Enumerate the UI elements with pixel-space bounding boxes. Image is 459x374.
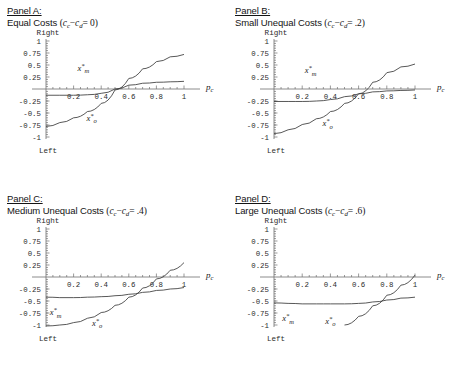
x-tick-label: 0.2 <box>67 93 80 101</box>
panel-b-condition: Small Unequal Costs <box>235 17 322 28</box>
y-tick-label: 0.5 <box>256 62 269 70</box>
y-tick-label: 1 <box>265 38 270 46</box>
x-axis-variable-label: pc <box>205 270 214 281</box>
x-tick-label: 0.2 <box>67 281 80 289</box>
panel-c-condition: Medium Unequal Costs <box>7 205 104 216</box>
curve-label-xm: x*m <box>76 62 89 74</box>
x-tick-label: 0.6 <box>122 93 135 101</box>
param-equals-value: = .6 <box>348 206 362 216</box>
y-tick-label: -1 <box>260 322 269 330</box>
param-equals-value: = 0 <box>83 18 95 28</box>
y-tick-label: 0.25 <box>23 262 41 270</box>
y-tick-label: 0.25 <box>23 74 41 82</box>
y-axis-bottom-label: Left <box>267 147 285 155</box>
curve-label-xm: x*m <box>281 312 294 324</box>
panel-c: Panel C: Medium Unequal Costs (cc−cd= .4… <box>0 188 228 374</box>
panel-d: Panel D: Large Unequal Costs (cc−cd= .6)… <box>228 188 459 374</box>
param-equals-value: = .4 <box>129 206 143 216</box>
y-tick-label: 0.25 <box>251 262 269 270</box>
x-tick-label: 0.6 <box>122 281 135 289</box>
y-axis-top-label: Right <box>37 217 60 225</box>
y-axis-bottom-label: Left <box>267 335 285 343</box>
panel-c-plot: 10.750.50.25-0.25-0.5-0.75-10.20.40.60.8… <box>0 215 228 373</box>
x-tick-label: 0.8 <box>150 281 163 289</box>
paren-close: ) <box>362 18 365 28</box>
panel-a-plot: 10.750.50.25-0.25-0.5-0.75-10.20.40.60.8… <box>0 27 228 185</box>
curve-label-xm: x*m <box>304 64 317 76</box>
y-tick-label: 0.75 <box>23 50 41 58</box>
y-tick-label: 0.5 <box>28 62 41 70</box>
panel-d-condition: Large Unequal Costs <box>235 205 322 216</box>
panel-b-svg: 10.750.50.25-0.25-0.5-0.75-10.20.40.60.8… <box>228 27 459 185</box>
curve-label-xo: x*o <box>324 315 336 327</box>
x-tick-label: 0.8 <box>380 93 393 101</box>
y-axis-bottom-label: Left <box>39 147 57 155</box>
panel-a-condition: Equal Costs <box>7 17 57 28</box>
y-tick-label: -0.25 <box>19 98 41 106</box>
y-tick-label: 0.25 <box>251 74 269 82</box>
x-tick-label: 1 <box>413 281 418 289</box>
panel-c-svg: 10.750.50.25-0.25-0.5-0.75-10.20.40.60.8… <box>0 215 228 371</box>
x-tick-label: 0.2 <box>296 281 309 289</box>
y-tick-label: -0.5 <box>23 110 41 118</box>
y-tick-label: -0.5 <box>251 298 269 306</box>
x-tick-label: 0.4 <box>324 281 338 289</box>
panel-a: Panel A: Equal Costs (cc−cd= 0) 10.750.5… <box>0 0 228 188</box>
y-tick-label: -0.75 <box>247 122 269 130</box>
curve-label-xm: x*m <box>49 306 62 318</box>
panel-d-plot: 10.750.50.25-0.25-0.5-0.75-10.20.40.60.8… <box>228 215 459 373</box>
y-tick-label: -0.25 <box>19 286 41 294</box>
curve-xm <box>274 297 415 304</box>
y-tick-label: -0.5 <box>23 298 41 306</box>
y-tick-label: 1 <box>37 226 42 234</box>
y-tick-label: 0.75 <box>251 50 269 58</box>
curve-xo <box>46 54 184 126</box>
y-tick-label: -1 <box>260 134 269 142</box>
y-tick-label: 0.75 <box>23 238 41 246</box>
y-axis-top-label: Right <box>265 217 288 225</box>
y-tick-label: -1 <box>32 134 41 142</box>
y-tick-label: 1 <box>37 38 42 46</box>
x-tick-label: 0.6 <box>352 281 365 289</box>
curve-label-xo: x*o <box>91 317 103 329</box>
panel-b-label: Panel B: <box>235 5 270 17</box>
x-tick-label: 0.2 <box>296 93 309 101</box>
y-tick-label: -0.75 <box>19 122 41 130</box>
y-tick-label: -1 <box>32 322 41 330</box>
figure-panel-grid: Panel A: Equal Costs (cc−cd= 0) 10.750.5… <box>0 0 459 374</box>
y-tick-label: 0.5 <box>28 250 41 258</box>
panel-b: Panel B: Small Unequal Costs (cc−cd= .2)… <box>228 0 459 188</box>
panel-d-label: Panel D: <box>235 193 271 205</box>
y-axis-top-label: Right <box>265 29 288 37</box>
y-axis-top-label: Right <box>37 29 60 37</box>
param-equals-value: = .2 <box>347 18 361 28</box>
curve-label-xo: x*o <box>321 117 333 129</box>
panel-a-label: Panel A: <box>7 5 42 17</box>
x-axis-variable-label: pc <box>205 82 214 93</box>
panel-c-label: Panel C: <box>7 193 43 205</box>
paren-close: ) <box>362 206 365 216</box>
paren-close: ) <box>144 206 147 216</box>
x-tick-label: 1 <box>182 93 187 101</box>
y-tick-label: -0.75 <box>247 310 269 318</box>
y-tick-label: -0.25 <box>247 98 269 106</box>
curve-label-xo: x*o <box>85 112 97 124</box>
x-axis-variable-label: pc <box>436 270 445 281</box>
y-axis-bottom-label: Left <box>39 335 57 343</box>
x-tick-label: 1 <box>413 93 418 101</box>
y-tick-label: 0.5 <box>256 250 269 258</box>
y-tick-label: 1 <box>265 226 270 234</box>
panel-a-svg: 10.750.50.25-0.25-0.5-0.75-10.20.40.60.8… <box>0 27 228 185</box>
panel-d-svg: 10.750.50.25-0.25-0.5-0.75-10.20.40.60.8… <box>228 215 459 371</box>
y-tick-label: -0.75 <box>19 310 41 318</box>
curve-xo <box>46 263 184 326</box>
curve-xm <box>46 288 184 298</box>
x-tick-label: 0.4 <box>95 281 109 289</box>
x-axis-variable-label: pc <box>436 82 445 93</box>
x-tick-label: 0.8 <box>380 281 393 289</box>
x-tick-label: 0.8 <box>150 93 163 101</box>
y-tick-label: -0.5 <box>251 110 269 118</box>
y-tick-label: 0.75 <box>251 238 269 246</box>
y-tick-label: -0.25 <box>247 286 269 294</box>
paren-close: ) <box>95 18 98 28</box>
